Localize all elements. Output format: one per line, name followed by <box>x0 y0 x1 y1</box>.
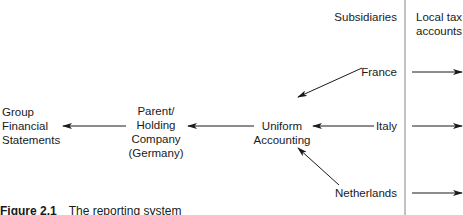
group-line2: Financial <box>2 119 60 133</box>
figure-caption: Figure 2.1The reporting system <box>0 204 181 215</box>
parent-line1: Parent/ <box>123 104 189 118</box>
node-parent-holding: Parent/ Holding Company (Germany) <box>123 104 189 160</box>
group-line1: Group <box>2 105 60 119</box>
node-netherlands: Netherlands <box>335 186 397 200</box>
arrow-france-to-uniform <box>298 68 362 97</box>
header-local-tax-line2: accounts <box>416 24 462 38</box>
uniform-line2: Accounting <box>250 133 314 147</box>
caption-number: Figure 2.1 <box>0 204 57 215</box>
node-france: France <box>361 65 397 79</box>
header-local-tax: Local tax accounts <box>416 10 462 38</box>
node-group-financial-statements: Group Financial Statements <box>2 105 60 147</box>
uniform-line1: Uniform <box>250 119 314 133</box>
caption-text: The reporting system <box>69 204 182 215</box>
parent-line4: (Germany) <box>123 146 189 160</box>
node-italy: Italy <box>376 119 397 133</box>
header-subsidiaries: Subsidiaries <box>334 10 397 24</box>
parent-line3: Company <box>123 132 189 146</box>
group-line3: Statements <box>2 133 60 147</box>
node-uniform-accounting: Uniform Accounting <box>250 119 314 147</box>
parent-line2: Holding <box>123 118 189 132</box>
diagram-arrows <box>0 0 463 215</box>
header-local-tax-line1: Local tax <box>416 10 462 24</box>
arrow-netherlands-to-uniform <box>298 148 339 185</box>
